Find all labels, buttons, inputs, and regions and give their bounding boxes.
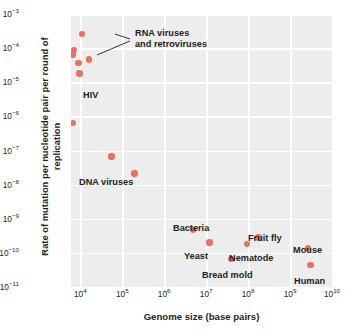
- y-axis-tick-label: 10−5: [3, 78, 19, 86]
- y-axis-tick-label: 10−10: [0, 249, 19, 257]
- y-axis-tick-label: 10−6: [3, 112, 19, 120]
- x-axis-tick-label: 108: [242, 290, 255, 298]
- y-axis-tick-label: 10−3: [3, 10, 19, 18]
- y-axis-tick-label: 10−7: [3, 147, 19, 155]
- y-axis-tick-label: 10−4: [3, 44, 19, 52]
- mutation-rate-scatter-figure: RNA viruses and retroviruses HIV DNA vir…: [0, 0, 353, 335]
- y-axis-tick-label: 10−11: [0, 283, 19, 291]
- x-axis-title: Genome size (base pairs): [71, 311, 332, 322]
- x-axis-tick-label: 105: [116, 290, 129, 298]
- plot-area: RNA viruses and retroviruses HIV DNA vir…: [71, 14, 332, 287]
- x-axis-tick-label: 109: [284, 290, 297, 298]
- x-axis-tick-label: 1010: [324, 290, 340, 298]
- y-axis-tick-label: 10−9: [3, 215, 19, 223]
- x-axis-tick-label: 106: [158, 290, 171, 298]
- y-axis-title: Rate of mutation per nucleotide pair per…: [39, 17, 62, 277]
- y-axis-tick-label: 10−8: [3, 181, 19, 189]
- leader-lines: [71, 14, 332, 287]
- x-axis-tick-label: 104: [74, 290, 87, 298]
- x-axis-tick-label: 107: [200, 290, 213, 298]
